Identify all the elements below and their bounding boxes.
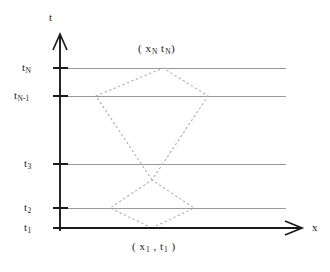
point-label-top-close: ) — [171, 42, 175, 54]
tick-label-t2-sub: 2 — [27, 206, 31, 215]
tick-label-t1: t1 — [24, 222, 31, 235]
point-label-top: ( xN tN) — [138, 43, 175, 56]
time-level-gridlines — [60, 68, 286, 208]
t-axis — [53, 34, 67, 231]
point-label-top-mid: t — [158, 42, 165, 54]
tick-label-t3: t3 — [24, 158, 31, 171]
tick-label-tN-sub: N — [25, 66, 31, 75]
spacetime-diagram: t x tN tN-1 t3 t2 t1 ( xN tN) ( x1 , t1 … — [0, 0, 330, 272]
upper-diamond — [96, 68, 208, 180]
lower-diamond — [110, 180, 194, 228]
x-axis-label: x — [312, 222, 318, 233]
point-label-bottom-open: ( x — [132, 240, 145, 252]
point-label-bottom: ( x1 , t1 ) — [132, 241, 176, 254]
tick-label-t1-sub: 1 — [27, 226, 31, 235]
point-label-bottom-close: ) — [168, 240, 175, 252]
characteristic-lattice — [96, 68, 208, 228]
tick-label-tNm1-sub: N-1 — [17, 94, 29, 103]
tick-label-t2: t2 — [24, 202, 31, 215]
t-axis-label: t — [49, 12, 52, 23]
tick-label-tNm1: tN-1 — [14, 90, 29, 103]
point-label-top-open: ( x — [138, 42, 151, 54]
tick-label-t3-sub: 3 — [27, 162, 31, 171]
point-label-bottom-mid: , t — [150, 240, 163, 252]
tick-label-tN: tN — [22, 62, 31, 75]
diagram-canvas — [0, 0, 330, 272]
x-axis — [59, 221, 302, 235]
